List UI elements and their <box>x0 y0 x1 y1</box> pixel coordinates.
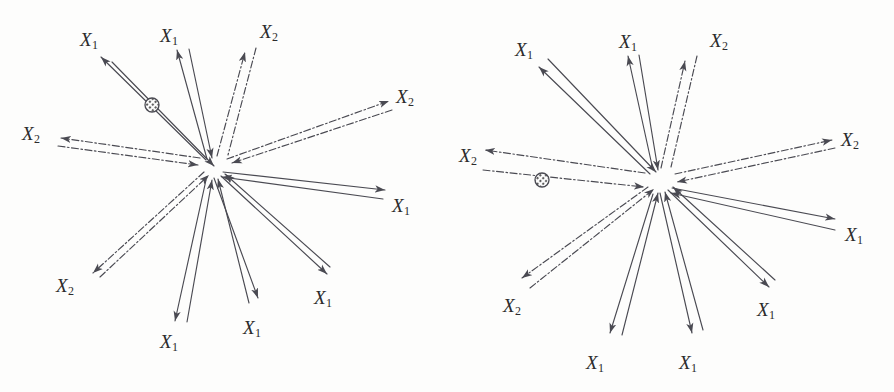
ray-x1-upper-mid-outbound-line <box>177 50 207 159</box>
ray-x1-upper-mid-inbound-line <box>189 49 212 158</box>
variable-subscript: 2 <box>272 30 278 44</box>
ray-x1-upper-mid-inbound-line <box>639 55 658 170</box>
ray-x1-lower-left-label: X1 <box>160 332 178 353</box>
right-panel: X1X1X2X2X2X1X2X1X1X1 <box>447 0 894 392</box>
variable-subscript: 1 <box>769 308 775 322</box>
variable-symbol: X <box>586 352 598 373</box>
ray-x1-upper-mid-label: X1 <box>619 32 637 53</box>
ray-x1-right-label: X1 <box>845 225 863 246</box>
ray-x1-lower-mid-outbound-line <box>660 193 692 333</box>
variable-subscript: 1 <box>631 40 637 54</box>
ray-x2-left-inbound-line <box>483 170 644 187</box>
variable-subscript: 1 <box>172 340 178 354</box>
ray-x1-lower-left-label: X1 <box>586 353 604 374</box>
ray-x2-right-label: X2 <box>396 87 414 108</box>
variable-symbol: X <box>22 123 34 144</box>
variable-subscript: 1 <box>857 233 863 247</box>
ray-x2-left-outbound-line <box>61 138 200 158</box>
variable-symbol: X <box>80 29 92 50</box>
ray-x2-lower-left-outbound-line <box>522 187 648 278</box>
left-panel-canvas <box>0 0 447 392</box>
variable-symbol: X <box>160 25 172 46</box>
ray-x1-lower-right-inbound-line <box>673 187 775 280</box>
variable-symbol: X <box>679 352 691 373</box>
ray-x2-right-outbound-line <box>675 140 832 174</box>
variable-subscript: 1 <box>172 34 178 48</box>
ray-x1-lower-mid-inbound-line <box>665 192 703 330</box>
right-panel-rays <box>483 55 835 335</box>
ray-x1-upper-left-label: X1 <box>515 40 533 61</box>
variable-symbol: X <box>619 31 631 52</box>
left-panel-particle <box>145 98 159 112</box>
variable-subscript: 2 <box>408 95 414 109</box>
ray-x1-upper-left-label: X1 <box>80 30 98 51</box>
variable-symbol: X <box>260 21 272 42</box>
ray-x2-lower-left-label: X2 <box>56 276 74 297</box>
ray-x1-lower-right-label: X1 <box>757 300 775 321</box>
ray-x2-right-inbound-line <box>232 110 392 163</box>
variable-subscript: 2 <box>853 138 859 152</box>
ray-x1-upper-mid-outbound-line <box>628 56 653 170</box>
variable-symbol: X <box>503 295 515 316</box>
ray-x2-right-inbound-line <box>677 148 835 182</box>
variable-subscript: 2 <box>722 39 728 53</box>
variable-subscript: 1 <box>326 296 332 310</box>
ray-x1-lower-right-inbound-line <box>225 174 330 267</box>
variable-subscript: 2 <box>68 284 74 298</box>
ray-x2-right-outbound-line <box>227 101 389 159</box>
variable-symbol: X <box>160 331 172 352</box>
ray-x1-right-outbound-line <box>672 188 835 219</box>
variable-subscript: 2 <box>515 304 521 318</box>
ray-x2-left-inbound-line <box>58 146 198 165</box>
ray-x2-lower-left-inbound-line <box>100 175 209 277</box>
ray-x1-lower-mid-outbound-line <box>214 178 258 298</box>
variable-symbol: X <box>710 30 722 51</box>
variable-symbol: X <box>841 129 853 150</box>
variable-subscript: 1 <box>527 48 533 62</box>
variable-symbol: X <box>396 86 408 107</box>
ray-x2-upper-right-label: X2 <box>260 22 278 43</box>
variable-symbol: X <box>845 224 857 245</box>
ray-x2-left-label: X2 <box>22 124 40 145</box>
ray-x1-lower-right-outbound-line <box>668 190 769 287</box>
ray-x1-lower-left-outbound-line <box>610 194 653 333</box>
variable-symbol: X <box>392 195 404 216</box>
ray-x1-upper-left-inbound-line <box>548 59 656 172</box>
ray-x2-upper-right-outbound-line <box>661 61 685 168</box>
ray-x1-lower-right-label: X1 <box>314 288 332 309</box>
scattering-figure: X1X1X2X2X2X1X2X1X1X1 X1X1X2X2X2X1X2X1X1X… <box>0 0 894 392</box>
ray-x1-lower-mid-label: X1 <box>243 318 261 339</box>
variable-symbol: X <box>314 287 326 308</box>
ray-x1-upper-mid-label: X1 <box>160 26 178 47</box>
hatched-circle-marker <box>535 173 549 187</box>
ray-x2-lower-left-outbound-line <box>93 172 204 273</box>
variable-subscript: 1 <box>92 38 98 52</box>
variable-symbol: X <box>243 317 255 338</box>
variable-symbol: X <box>56 275 68 296</box>
ray-x2-left-label: X2 <box>459 146 477 167</box>
ray-x1-lower-left-inbound-line <box>622 193 658 335</box>
ray-x2-upper-right-inbound-line <box>671 56 697 167</box>
ray-x2-upper-right-label: X2 <box>710 31 728 52</box>
variable-subscript: 2 <box>34 132 40 146</box>
ray-x1-right-label: X1 <box>392 196 410 217</box>
ray-x2-lower-left-label: X2 <box>503 296 521 317</box>
variable-subscript: 1 <box>598 361 604 375</box>
variable-symbol: X <box>459 145 471 166</box>
right-panel-particle <box>535 173 549 187</box>
ray-x1-right-inbound-line <box>671 193 835 230</box>
ray-x1-lower-mid-label: X1 <box>679 353 697 374</box>
left-panel: X1X1X2X2X2X1X2X1X1X1 <box>0 0 447 392</box>
ray-x2-lower-left-inbound-line <box>530 189 654 288</box>
ray-x1-upper-left-inbound-line <box>112 62 214 166</box>
variable-symbol: X <box>757 299 769 320</box>
ray-x2-right-label: X2 <box>841 130 859 151</box>
left-panel-rays <box>58 48 392 322</box>
variable-subscript: 2 <box>471 154 477 168</box>
ray-x1-lower-right-outbound-line <box>221 176 327 274</box>
hatched-circle-marker <box>145 98 159 112</box>
ray-x2-left-outbound-line <box>485 150 645 173</box>
variable-symbol: X <box>515 39 527 60</box>
variable-subscript: 1 <box>691 361 697 375</box>
variable-subscript: 1 <box>255 326 261 340</box>
